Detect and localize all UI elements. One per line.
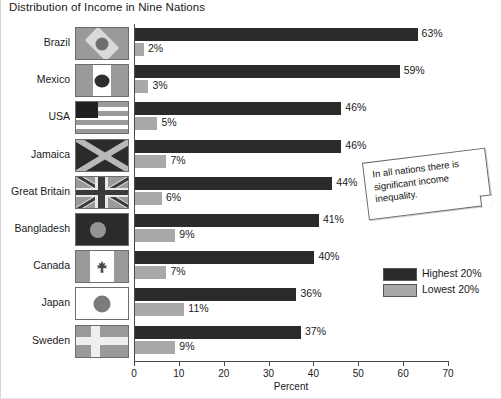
x-tick-label-0: 0 <box>131 368 137 379</box>
red-band <box>111 65 128 96</box>
callout-fold-corner <box>480 194 493 207</box>
sun-disc <box>94 295 111 312</box>
globe <box>96 37 109 50</box>
x-tick-label-10: 10 <box>173 368 184 379</box>
value-label-lowest-great-britain: 6% <box>166 191 181 203</box>
country-label-mexico: Mexico <box>0 73 70 85</box>
great-britain-flag <box>75 176 129 209</box>
country-label-bangladesh: Bangladesh <box>0 222 70 234</box>
bar-lowest-great-britain <box>135 192 162 205</box>
value-label-highest-brazil: 63% <box>422 27 443 39</box>
country-label-canada: Canada <box>0 259 70 271</box>
usa-flag-art <box>76 102 128 133</box>
value-label-highest-japan: 36% <box>300 287 321 299</box>
value-label-lowest-bangladesh: 9% <box>179 228 194 240</box>
bar-highest-japan <box>135 288 296 301</box>
value-label-lowest-usa: 5% <box>161 116 176 128</box>
value-label-lowest-jamaica: 7% <box>170 154 185 166</box>
chart-row: Mexico59%3% <box>0 64 501 101</box>
highest-20-swatch <box>383 268 417 281</box>
jamaica-flag <box>75 139 129 172</box>
value-label-lowest-sweden: 9% <box>179 340 194 352</box>
stripe-6 <box>76 129 128 133</box>
sweden-flag <box>75 325 129 358</box>
canton <box>76 102 98 118</box>
value-label-lowest-brazil: 2% <box>148 42 163 54</box>
canada-flag <box>75 250 129 283</box>
x-tick-label-70: 70 <box>442 368 453 379</box>
japan-flag <box>75 287 129 320</box>
x-tick-label-50: 50 <box>353 368 364 379</box>
brazil-flag-art <box>76 28 128 59</box>
chart-title: Distribution of Income in Nine Nations <box>9 1 205 13</box>
x-tick-label-30: 30 <box>263 368 274 379</box>
value-label-highest-jamaica: 46% <box>345 139 366 151</box>
x-tick-label-60: 60 <box>398 368 409 379</box>
value-label-highest-sweden: 37% <box>305 325 326 337</box>
left-band <box>76 251 90 282</box>
jamaica-flag-art <box>76 140 128 171</box>
country-label-japan: Japan <box>0 296 70 308</box>
cross-horizontal <box>76 337 128 345</box>
usa-flag <box>75 101 129 134</box>
mexico-flag-art <box>76 65 128 96</box>
country-label-usa: USA <box>0 110 70 122</box>
bar-highest-usa <box>135 102 341 115</box>
value-label-lowest-mexico: 3% <box>152 79 167 91</box>
bar-highest-brazil <box>135 28 418 41</box>
chart-row: Brazil63%2% <box>0 27 501 64</box>
country-label-sweden: Sweden <box>0 334 70 346</box>
value-label-highest-bangladesh: 41% <box>323 213 344 225</box>
great-britain-flag-art <box>76 177 128 208</box>
country-label-brazil: Brazil <box>0 36 70 48</box>
bar-lowest-brazil <box>135 43 144 56</box>
cross-v-red <box>98 177 105 208</box>
chart-row: Bangladesh41%9% <box>0 213 501 250</box>
value-label-lowest-canada: 7% <box>170 265 185 277</box>
sweden-flag-art <box>76 326 128 357</box>
bar-highest-sweden <box>135 326 301 339</box>
bar-lowest-bangladesh <box>135 229 175 242</box>
bar-lowest-mexico <box>135 80 148 93</box>
value-label-highest-mexico: 59% <box>404 64 425 76</box>
bar-lowest-canada <box>135 266 166 279</box>
value-label-highest-canada: 40% <box>318 250 339 262</box>
bar-lowest-usa <box>135 117 157 130</box>
chart-page: Distribution of Income in Nine Nations 0… <box>0 0 501 399</box>
cross-vertical <box>91 326 100 357</box>
bar-lowest-jamaica <box>135 155 166 168</box>
bar-highest-great-britain <box>135 177 332 190</box>
bar-highest-canada <box>135 251 314 264</box>
bar-highest-mexico <box>135 65 400 78</box>
brazil-flag <box>75 27 129 60</box>
bar-lowest-japan <box>135 303 184 316</box>
right-band <box>114 251 128 282</box>
value-label-highest-great-britain: 44% <box>336 176 357 188</box>
bangladesh-flag-art <box>76 214 128 245</box>
green-band <box>76 65 93 96</box>
bar-lowest-sweden <box>135 341 175 354</box>
country-label-great-britain: Great Britain <box>0 185 70 197</box>
value-label-lowest-japan: 11% <box>188 302 208 314</box>
country-label-jamaica: Jamaica <box>0 148 70 160</box>
canada-flag-art <box>76 251 128 282</box>
legend-label-highest: Highest 20% <box>422 267 482 279</box>
bar-highest-bangladesh <box>135 214 319 227</box>
bar-highest-jamaica <box>135 140 341 153</box>
x-tick-label-40: 40 <box>308 368 319 379</box>
lowest-20-swatch <box>383 284 417 297</box>
legend-label-lowest: Lowest 20% <box>422 283 479 295</box>
eagle <box>95 74 110 87</box>
disc <box>90 222 106 238</box>
bangladesh-flag <box>75 213 129 246</box>
x-axis-label: Percent <box>274 381 308 392</box>
value-label-highest-usa: 46% <box>345 101 366 113</box>
chart-row: Sweden37%9% <box>0 325 501 362</box>
japan-flag-art <box>76 288 128 319</box>
mexico-flag <box>75 64 129 97</box>
x-tick-label-20: 20 <box>218 368 229 379</box>
chart-row: USA46%5% <box>0 101 501 138</box>
